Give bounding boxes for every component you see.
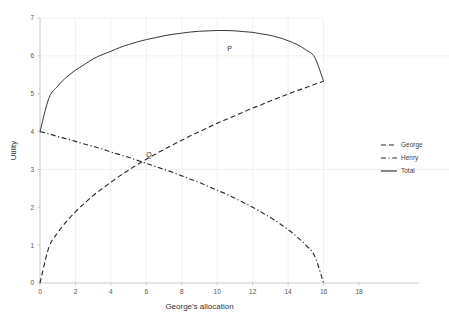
annotations: PQ (146, 45, 232, 159)
y-tick-label: 0 (30, 279, 34, 286)
x-tick-label: 10 (214, 288, 222, 295)
x-tick-label: 2 (74, 288, 78, 295)
point-label-q: Q (146, 151, 152, 159)
x-tick-label: 16 (320, 288, 328, 295)
legend-label-henry[interactable]: Henry (401, 154, 419, 162)
y-tick-label: 1 (30, 242, 34, 249)
x-tick-label: 8 (180, 288, 184, 295)
x-tick-label: 12 (249, 288, 257, 295)
y-tick-label: 7 (30, 14, 34, 21)
x-tick-label: 14 (284, 288, 292, 295)
y-tick-label: 2 (30, 204, 34, 211)
y-axis-title: Utility (9, 141, 18, 161)
axes (40, 18, 419, 283)
chart-figure: 02468101214161801234567George's allocati… (0, 0, 449, 323)
y-tick-label: 5 (30, 90, 34, 97)
x-tick-label: 6 (145, 288, 149, 295)
y-tick-label: 3 (30, 166, 34, 173)
legend-label-total[interactable]: Total (401, 167, 415, 174)
point-label-p: P (227, 45, 232, 52)
y-tick-label: 6 (30, 52, 34, 59)
x-tick-label: 18 (355, 288, 363, 295)
x-tick-label: 0 (38, 288, 42, 295)
utility-allocation-chart: 02468101214161801234567George's allocati… (0, 0, 449, 323)
x-tick-label: 4 (109, 288, 113, 295)
x-axis-title: George's allocation (165, 302, 233, 311)
legend-label-george[interactable]: George (401, 141, 423, 149)
gridlines (40, 18, 449, 283)
y-tick-label: 4 (30, 128, 34, 135)
